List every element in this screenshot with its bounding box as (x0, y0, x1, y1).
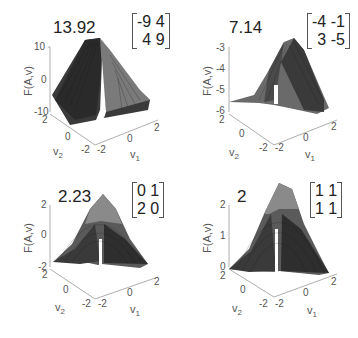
y-tick: -2 (259, 142, 268, 153)
matrix-label: -4 -1 3 -5 (307, 13, 350, 49)
z-axis-label: F(A,v) (201, 223, 213, 253)
v2-axis-label: v2 (55, 301, 65, 316)
matrix-row-1: 0 1 (137, 182, 159, 200)
v2-axis-label: v2 (232, 302, 242, 317)
matrix-label: -9 4 4 9 (132, 13, 170, 49)
x-tick: -2 (275, 298, 284, 309)
z-tick: 2 (41, 199, 47, 210)
z-tick: 0 (41, 74, 47, 85)
right-bracket (345, 13, 350, 49)
y-tick: 2 (42, 114, 48, 125)
left-bracket (132, 13, 137, 49)
x-tick: 2 (154, 276, 160, 287)
z-tick: 10 (34, 41, 45, 52)
x-tick: 2 (154, 122, 160, 133)
y-tick: -2 (82, 298, 91, 309)
z-tick: -4 (216, 63, 225, 74)
y-tick: 0 (240, 284, 246, 295)
y-tick: 2 (42, 269, 48, 280)
right-bracket (159, 182, 164, 218)
z-axis-label: F(A,v) (22, 66, 34, 96)
right-bracket (165, 13, 170, 49)
v2-axis-label: v2 (53, 145, 63, 160)
x-tick: -2 (275, 142, 284, 153)
v1-axis-label: v1 (307, 304, 317, 319)
subplot-2: 7.14 -4 -1 3 -5 -3 -4 -5 -6 F(A,v) 2 0 -… (179, 0, 358, 169)
x-tick: 2 (331, 276, 337, 287)
v1-axis-label: v1 (130, 148, 140, 163)
matrix-row-2: 2 0 (137, 200, 159, 218)
subplot-3: 2.23 0 1 2 0 2 0 -2 F(A,v) 2 0 -2 -2 0 2… (0, 169, 179, 338)
matrix-row-1: 1 1 (315, 182, 337, 200)
subplot-1: 13.92 -9 4 4 9 10 0 -10 F(A,v) 2 0 -2 -2… (0, 0, 179, 169)
y-tick: 0 (239, 128, 245, 139)
v1-axis-label: v1 (305, 148, 315, 163)
z-axis-label: F(A,v) (201, 66, 213, 96)
matrix-label: 0 1 2 0 (132, 182, 164, 218)
matrix-row-2: 3 -5 (312, 31, 345, 49)
plot-title: 7.14 (229, 18, 262, 38)
right-bracket (337, 182, 342, 218)
subplot-4: 2 1 1 1 1 2 1 0 F(A,v) 2 0 -2 -2 0 2 v2 … (179, 169, 358, 338)
v2-axis-label: v2 (229, 146, 239, 161)
plot-title: 13.92 (53, 18, 96, 38)
y-tick: 2 (220, 270, 226, 281)
matrix-row-1: -4 -1 (312, 13, 345, 31)
plot-title: 2 (237, 187, 246, 207)
v1-axis-label: v1 (130, 303, 140, 318)
y-tick: 0 (65, 131, 71, 142)
x-tick: -2 (97, 144, 106, 155)
left-bracket (307, 13, 312, 49)
y-tick: 2 (219, 114, 225, 125)
x-tick: 0 (127, 133, 133, 144)
matrix-row-2: 4 9 (137, 31, 165, 49)
y-tick: 0 (63, 284, 69, 295)
matrix-row-1: -9 4 (137, 13, 165, 31)
x-tick: -2 (98, 298, 107, 309)
z-tick: -5 (216, 84, 225, 95)
left-bracket (132, 182, 137, 218)
left-bracket (310, 182, 315, 218)
plot-title: 2.23 (58, 187, 91, 207)
y-tick: -2 (259, 298, 268, 309)
x-tick: 2 (331, 121, 337, 132)
matrix-row-2: 1 1 (315, 200, 337, 218)
y-tick: -2 (81, 144, 90, 155)
x-tick: 0 (303, 132, 309, 143)
matrix-label: 1 1 1 1 (310, 182, 342, 218)
z-tick: 1 (220, 230, 226, 241)
z-tick: 0 (41, 229, 47, 240)
z-tick: 2 (220, 199, 226, 210)
z-tick: -3 (216, 42, 225, 53)
x-tick: 0 (303, 287, 309, 298)
z-axis-label: F(A,v) (22, 223, 34, 253)
x-tick: 0 (127, 287, 133, 298)
